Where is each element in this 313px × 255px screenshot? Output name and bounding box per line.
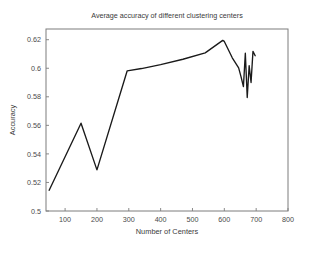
y-tick-label: 0.5 bbox=[31, 207, 41, 216]
x-tick-label: 200 bbox=[91, 215, 103, 224]
y-tick-label: 0.62 bbox=[27, 35, 41, 44]
x-axis-ticks: 100200300400500600700800 bbox=[59, 208, 294, 224]
accuracy-line-chart: Average accuracy of different clustering… bbox=[0, 0, 313, 255]
x-tick-label: 800 bbox=[282, 215, 294, 224]
y-tick-label: 0.58 bbox=[27, 92, 41, 101]
x-tick-label: 300 bbox=[123, 215, 135, 224]
chart-title: Average accuracy of different clustering… bbox=[91, 11, 243, 20]
x-tick-label: 400 bbox=[155, 215, 167, 224]
x-tick-label: 600 bbox=[218, 215, 230, 224]
data-series-line bbox=[49, 40, 255, 190]
x-tick-label: 700 bbox=[250, 215, 262, 224]
x-axis-label: Number of Centers bbox=[136, 227, 199, 236]
y-tick-label: 0.56 bbox=[27, 121, 41, 130]
x-tick-label: 100 bbox=[59, 215, 71, 224]
y-axis-label: Accuracy bbox=[8, 105, 17, 136]
figure-canvas: Average accuracy of different clustering… bbox=[0, 0, 313, 255]
y-tick-label: 0.52 bbox=[27, 178, 41, 187]
y-tick-label: 0.6 bbox=[31, 64, 41, 73]
x-tick-label: 500 bbox=[186, 215, 198, 224]
plot-frame bbox=[46, 29, 288, 211]
y-tick-label: 0.54 bbox=[27, 150, 41, 159]
